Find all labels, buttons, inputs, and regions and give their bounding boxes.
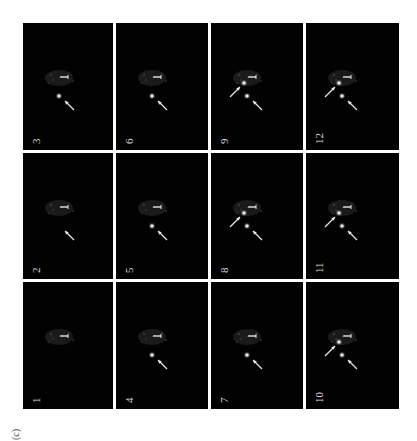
panel-11: 11 <box>306 153 399 279</box>
arrow-icon <box>325 87 335 97</box>
micrograph <box>116 282 208 409</box>
micrograph <box>306 23 399 150</box>
panel-4: 4 <box>116 282 208 409</box>
arrow-icon <box>348 231 357 240</box>
arrow-icon <box>253 101 262 110</box>
arrow-icon <box>65 231 74 240</box>
panel-number: 7 <box>218 398 230 404</box>
panel-number: 12 <box>313 133 325 144</box>
arrow-icon <box>158 231 167 240</box>
figure: (c) 123456789101112 <box>0 0 417 441</box>
panel-9: 9 <box>211 23 303 150</box>
arrow-icon <box>230 217 240 227</box>
panel-5: 5 <box>116 153 208 279</box>
panel-number: 10 <box>313 392 325 403</box>
panel-number: 5 <box>123 268 135 274</box>
panel-number: 1 <box>30 398 42 404</box>
panel-6: 6 <box>116 23 208 150</box>
arrow-icon <box>65 101 74 110</box>
micrograph <box>211 153 303 279</box>
panel-2: 2 <box>23 153 113 279</box>
micrograph <box>211 282 303 409</box>
panel-number: 2 <box>30 268 42 274</box>
micrograph <box>116 23 208 150</box>
figure-label: (c) <box>10 429 21 440</box>
arrow-icon <box>348 101 357 110</box>
panel-number: 6 <box>123 139 135 145</box>
micrograph <box>23 282 113 409</box>
panel-number: 8 <box>218 268 230 274</box>
micrograph <box>211 23 303 150</box>
micrograph <box>306 153 399 279</box>
panel-7: 7 <box>211 282 303 409</box>
panel-10: 10 <box>306 282 399 409</box>
arrow-icon <box>325 217 335 227</box>
micrograph <box>306 282 399 409</box>
panel-number: 3 <box>30 139 42 145</box>
panel-number: 11 <box>313 262 325 273</box>
arrow-icon <box>158 360 167 369</box>
panel-8: 8 <box>211 153 303 279</box>
arrow-icon <box>230 87 240 97</box>
micrograph <box>116 153 208 279</box>
panel-number: 4 <box>123 398 135 404</box>
arrow-icon <box>253 360 262 369</box>
panel-number: 9 <box>218 139 230 145</box>
panel-1: 1 <box>23 282 113 409</box>
arrow-icon <box>158 101 167 110</box>
arrow-icon <box>325 346 335 356</box>
arrow-icon <box>348 360 357 369</box>
micrograph <box>23 23 113 150</box>
panel-3: 3 <box>23 23 113 150</box>
arrow-icon <box>253 231 262 240</box>
panel-12: 12 <box>306 23 399 150</box>
micrograph <box>23 153 113 279</box>
